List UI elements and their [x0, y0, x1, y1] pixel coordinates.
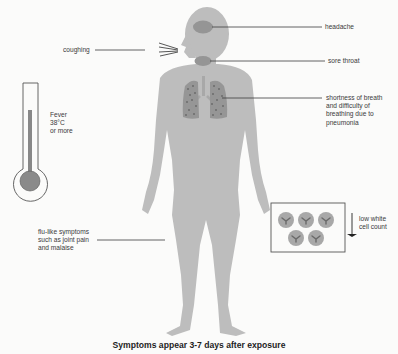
- headache-label: headache: [325, 23, 354, 31]
- white-cell-box: [271, 203, 357, 252]
- thermometer-icon: [14, 83, 48, 201]
- cough-lines-icon: [159, 43, 178, 56]
- down-arrow-icon: [347, 213, 357, 237]
- flu-like-label: flu-like symptoms such as joint pain and…: [38, 228, 89, 253]
- diagram-graphics: [0, 0, 398, 354]
- diagram-caption: Symptoms appear 3-7 days after exposure: [0, 340, 398, 350]
- white-cell-label: low white cell count: [359, 215, 387, 231]
- sore-throat-label: sore throat: [328, 57, 360, 65]
- fever-label: Fever 38°C or more: [50, 111, 73, 136]
- coughing-label: coughing: [63, 46, 90, 54]
- sore-throat-region-icon: [195, 56, 212, 66]
- headache-region-icon: [193, 21, 213, 34]
- white-blood-cell-icon: [278, 212, 334, 246]
- breath-label: shortness of breath and difficulty of br…: [326, 94, 382, 127]
- symptom-diagram: headache sore throat shortness of breath…: [0, 0, 398, 354]
